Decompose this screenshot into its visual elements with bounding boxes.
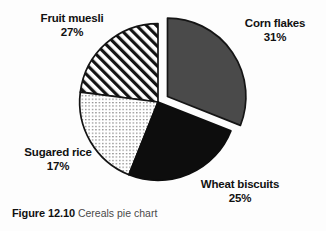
figure-number: Figure 12.10: [12, 207, 75, 219]
pie-chart: Fruit muesli 27% Corn flakes 31% Sugared…: [0, 0, 326, 200]
pie-label-corn-flakes: Corn flakes 31%: [228, 17, 322, 44]
pie-label-fruit-muesli-percent: 27%: [18, 26, 126, 40]
figure-container: Fruit muesli 27% Corn flakes 31% Sugared…: [0, 0, 326, 231]
pie-label-wheat-biscuits-name: Wheat biscuits: [184, 178, 296, 192]
pie-label-sugared-rice-percent: 17%: [6, 160, 110, 174]
pie-label-corn-flakes-name: Corn flakes: [228, 17, 322, 31]
pie-label-fruit-muesli-name: Fruit muesli: [18, 12, 126, 26]
pie-label-sugared-rice: Sugared rice 17%: [6, 146, 110, 173]
pie-label-sugared-rice-name: Sugared rice: [6, 146, 110, 160]
figure-caption: Figure 12.10 Cereals pie chart: [12, 206, 322, 220]
pie-label-wheat-biscuits: Wheat biscuits 25%: [184, 178, 296, 205]
figure-caption-text: Cereals pie chart: [78, 207, 157, 219]
pie-label-corn-flakes-percent: 31%: [228, 31, 322, 45]
pie-label-wheat-biscuits-percent: 25%: [184, 192, 296, 206]
pie-label-fruit-muesli: Fruit muesli 27%: [18, 12, 126, 39]
